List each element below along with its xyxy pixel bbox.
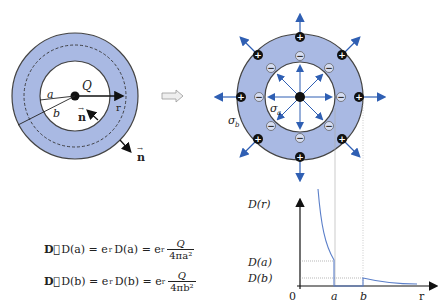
svg-text:r: r [116,102,121,113]
svg-text:+: + [355,92,363,102]
svg-text:→: → [137,145,143,153]
svg-text:b: b [360,290,367,303]
equation-da: D⃗D(a) = erD(a) = er Q4πa² [44,238,194,261]
svg-text:→: → [78,105,84,113]
svg-text:r: r [419,290,425,303]
svg-text:−: − [325,63,333,73]
svg-text:−: − [255,92,263,102]
svg-text:+: + [338,134,346,144]
svg-text:+: + [338,50,346,60]
svg-text:D(a): D(a) [247,256,272,269]
svg-text:−: − [267,63,275,73]
svg-text:−: − [325,121,333,131]
svg-text:0: 0 [289,290,296,303]
svg-text:D(b): D(b) [247,272,272,285]
charge-label: Q [82,79,92,93]
right-shell-diagram: ++ ++ ++ ++ −− −− −− −− σ a σ b [216,15,384,180]
radius-b-label: b [53,107,60,120]
svg-text:+: + [296,152,304,162]
diagram-canvas: Q a b r n → n → [0,0,445,308]
svg-text:−: − [337,92,345,102]
radius-a-label: a [47,88,54,101]
svg-text:a: a [331,290,338,303]
svg-text:−: − [267,121,275,131]
svg-text:+: + [254,50,262,60]
left-shell-diagram: Q a b r n → n → [12,33,145,164]
svg-text:−: − [296,51,304,61]
equation-db: D⃗D(b) = erD(b) = er Q4πb² [44,270,196,293]
svg-text:a: a [277,109,281,117]
transition-arrow-icon [162,90,183,102]
svg-text:D(r): D(r) [247,198,271,211]
svg-text:+: + [237,92,245,102]
svg-text:−: − [296,133,304,143]
svg-text:+: + [296,32,304,42]
svg-text:b: b [235,121,240,129]
svg-text:+: + [254,134,262,144]
